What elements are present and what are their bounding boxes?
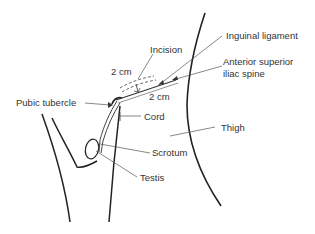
label-scrotum: Scrotum xyxy=(152,147,187,158)
label-cord: Cord xyxy=(144,111,165,122)
label-thigh: Thigh xyxy=(221,122,245,133)
incision-leader xyxy=(138,54,153,79)
pubic-tubercle-leader xyxy=(85,103,110,105)
left-leg-outline xyxy=(42,114,70,222)
label-asis-line2: iliac spine xyxy=(223,68,265,79)
thigh-leader xyxy=(170,127,215,136)
label-pubic-tubercle: Pubic tubercle xyxy=(16,97,76,108)
scrotum-shape xyxy=(84,138,101,160)
incision-dashed-line xyxy=(120,76,154,88)
label-inguinal-ligament: Inguinal ligament xyxy=(226,30,298,41)
asis-arrowhead xyxy=(172,76,178,80)
label-dimension-right: 2 cm xyxy=(149,91,170,102)
label-dimension-top: 2 cm xyxy=(111,66,132,77)
label-testis: Testis xyxy=(140,172,164,183)
scrotum-leader xyxy=(100,144,150,153)
body-outline-center xyxy=(109,106,120,222)
testis-leader xyxy=(96,151,137,177)
asis-leader xyxy=(176,66,222,79)
thigh-outline xyxy=(187,13,221,206)
perineum-outline xyxy=(52,118,97,167)
label-asis-line1: Anterior superior xyxy=(223,56,293,67)
label-incision: Incision xyxy=(150,44,182,55)
